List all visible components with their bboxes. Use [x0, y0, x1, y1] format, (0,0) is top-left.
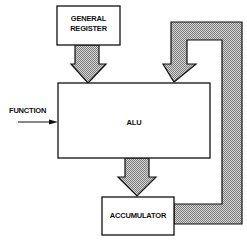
general-register-label: GENERAL REGISTER [57, 14, 120, 34]
function-label: FUNCTION [9, 106, 57, 116]
function-arrowhead-icon [49, 120, 58, 125]
alu-to-accumulator-arrow [118, 158, 156, 196]
register-to-alu-arrow [71, 45, 106, 83]
alu-label: ALU [58, 118, 210, 128]
general-register-label-line2: REGISTER [57, 24, 120, 34]
general-register-label-line1: GENERAL [57, 14, 120, 24]
accumulator-label: ACCUMULATOR [102, 211, 174, 221]
